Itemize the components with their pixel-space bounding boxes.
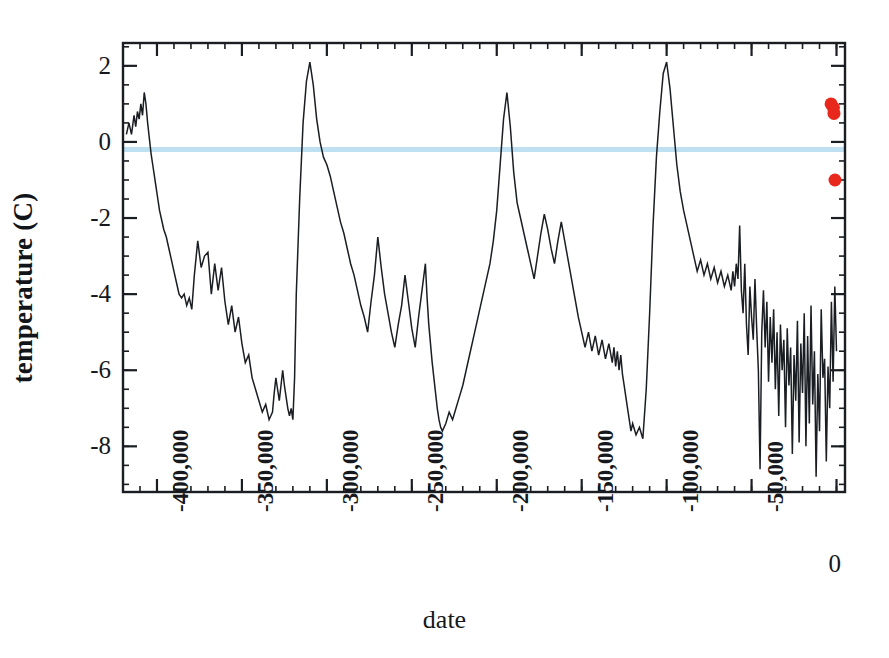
y-tick-label: 2	[65, 52, 111, 80]
x-tick-label: -200,000	[508, 430, 534, 512]
x-tick-label: -400,000	[168, 430, 194, 512]
chart-figure: temperature (C) date 20-2-4-6-8 -400,000…	[0, 0, 889, 658]
x-tick-label: -50,000	[763, 441, 789, 512]
data-point-marker	[828, 173, 841, 186]
x-tick-label: -150,000	[593, 430, 619, 512]
data-point-marker	[827, 107, 840, 120]
x-axis-title: date	[0, 605, 889, 635]
x-tick-label: -250,000	[423, 430, 449, 512]
plot-canvas	[0, 0, 889, 658]
x-tick-label: -100,000	[678, 430, 704, 512]
series-line-0	[126, 62, 836, 477]
y-axis-title: temperature (C)	[8, 193, 38, 384]
y-tick-label: -2	[65, 204, 111, 232]
y-axis-title-wrapper: temperature (C)	[8, 123, 48, 453]
y-tick-label: 0	[65, 128, 111, 156]
y-tick-label: -4	[65, 280, 111, 308]
x-tick-label: -350,000	[253, 430, 279, 512]
x-tick-label: 0	[829, 550, 842, 578]
y-tick-label: -8	[65, 432, 111, 460]
y-tick-label: -6	[65, 356, 111, 384]
x-tick-label: -300,000	[338, 430, 364, 512]
